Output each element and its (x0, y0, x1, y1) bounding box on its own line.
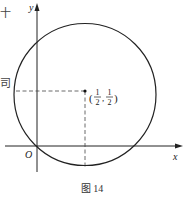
y-fraction-denominator: 2 (108, 98, 112, 107)
center-coordinate-label: ( 1 2 , 1 2 ) (89, 88, 118, 107)
svg-text:): ) (114, 92, 118, 105)
x-axis (5, 144, 183, 149)
center-point (83, 89, 86, 92)
svg-text:,: , (102, 93, 104, 103)
x-axis-label: x (172, 151, 178, 162)
origin-label: O (25, 149, 32, 160)
x-axis-arrow-icon (175, 144, 183, 149)
x-fraction-numerator: 1 (96, 88, 100, 97)
x-fraction-denominator: 2 (96, 98, 100, 107)
y-axis-label: y (28, 2, 34, 13)
y-axis-arrow-icon (35, 3, 40, 11)
y-fraction-numerator: 1 (108, 88, 112, 97)
svg-text:(: ( (89, 92, 93, 105)
figure-caption: 图 14 (0, 180, 184, 195)
circle-diagram: y x O ( 1 2 , 1 2 ) (0, 0, 184, 198)
